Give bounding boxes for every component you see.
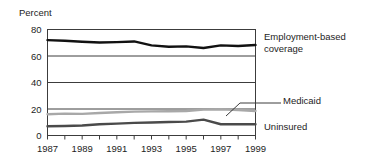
y-tick-label: 60 <box>31 51 42 62</box>
y-tick-label: 20 <box>31 104 42 115</box>
line-chart-plot: 020406080 1987198919911993199519971999 <box>0 0 378 167</box>
x-tick-label: 1995 <box>176 143 197 154</box>
x-tick-label: 1997 <box>210 143 231 154</box>
series-label-medicaid: Medicaid <box>283 95 321 107</box>
x-tick-label: 1991 <box>106 143 127 154</box>
series-label-employment-based-coverage: Employment-based coverage <box>264 31 374 54</box>
x-tick-labels-group: 1987198919911993199519971999 <box>37 143 266 154</box>
y-tick-label: 80 <box>31 24 42 35</box>
y-tick-label: 40 <box>31 77 42 88</box>
series-label-uninsured: Uninsured <box>264 121 307 133</box>
y-tick-labels-group: 020406080 <box>31 24 42 141</box>
x-tick-label: 1999 <box>245 143 266 154</box>
x-tick-label: 1987 <box>37 143 58 154</box>
x-tick-marks-group <box>48 136 256 140</box>
chart-figure: Percent 020406080 1987198919911993199519… <box>0 0 378 167</box>
series-line-employment-based-coverage <box>48 40 256 48</box>
x-tick-label: 1993 <box>141 143 162 154</box>
data-series-group <box>48 40 256 126</box>
y-tick-label: 0 <box>36 130 41 141</box>
series-line-medicaid <box>48 109 256 114</box>
x-tick-label: 1989 <box>72 143 93 154</box>
series-line-uninsured <box>48 120 256 127</box>
